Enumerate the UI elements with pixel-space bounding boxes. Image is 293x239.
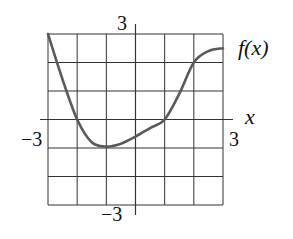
function-label: f(x) bbox=[238, 35, 269, 60]
x-axis-label: x bbox=[244, 104, 255, 129]
y-min-label: −3 bbox=[101, 203, 122, 225]
y-max-label: 3 bbox=[117, 12, 127, 34]
x-max-label: 3 bbox=[229, 128, 239, 150]
x-min-label: −3 bbox=[21, 128, 42, 150]
function-graph: 3 −3 −3 3 x f(x) bbox=[0, 0, 293, 239]
